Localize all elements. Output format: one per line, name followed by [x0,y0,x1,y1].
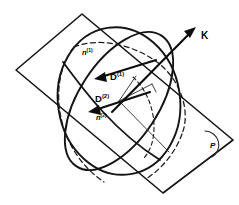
dashed-hidden-edges [59,42,186,182]
optics-diagram-svg: n(1) D(1) D(2) n(2) K P [0,0,239,205]
label-displacement-1: D(1) [110,71,124,82]
d1-arrow-head [94,72,107,82]
displacement-1-arrow [94,60,156,82]
axis-tick-minor [152,84,156,92]
label-index-2: n(2) [96,112,107,122]
dashed-arc-right-lower [146,134,182,179]
principal-axes-of-section [119,76,169,152]
label-plane-P: P [210,141,216,150]
label-index-1: n(1) [82,47,93,57]
label-displacement-2: D(2) [95,93,109,104]
figure-container: n(1) D(1) D(2) n(2) K P [0,0,239,205]
label-wave-vector: K [201,30,209,41]
